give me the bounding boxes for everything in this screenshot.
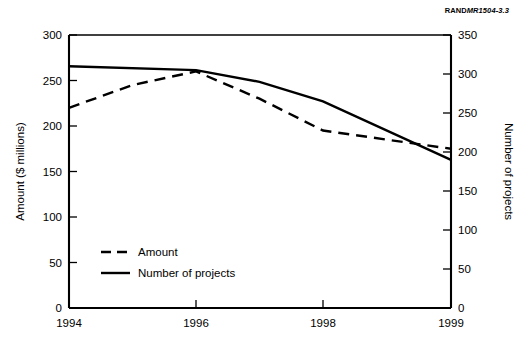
x-axis-tick-labels: 1994 1996 1998 1999 bbox=[56, 317, 464, 329]
right-tick-label-100: 100 bbox=[458, 224, 477, 236]
x-tick-label-1996: 1996 bbox=[183, 317, 209, 329]
x-tick-label-1994: 1994 bbox=[56, 317, 82, 329]
x-axis-ticks bbox=[69, 300, 451, 308]
right-tick-label-0: 0 bbox=[458, 302, 464, 314]
left-axis-ticks bbox=[69, 35, 77, 308]
rand-brand-label: RAND bbox=[445, 6, 467, 15]
left-tick-label-100: 100 bbox=[43, 211, 62, 223]
left-tick-label-200: 200 bbox=[43, 120, 62, 132]
rand-credit-line: RANDMR1504-3.3 bbox=[445, 7, 509, 15]
right-axis-title: Number of projects bbox=[503, 123, 515, 220]
right-tick-label-150: 150 bbox=[458, 185, 477, 197]
left-tick-label-300: 300 bbox=[43, 29, 62, 41]
chart-legend: Amount Number of projects bbox=[101, 246, 235, 279]
legend-label-amount: Amount bbox=[138, 246, 178, 258]
x-tick-label-1998: 1998 bbox=[310, 317, 336, 329]
legend-label-number-of-projects: Number of projects bbox=[138, 267, 235, 279]
plot-frame bbox=[69, 35, 451, 308]
right-tick-label-200: 200 bbox=[458, 146, 477, 158]
data-series-group bbox=[69, 66, 451, 160]
left-tick-label-0: 0 bbox=[56, 302, 62, 314]
right-tick-label-300: 300 bbox=[458, 68, 477, 80]
figure-container: RANDMR1504-3.3 0 50 100 150 200 250 bbox=[0, 0, 519, 344]
right-tick-label-50: 50 bbox=[458, 263, 471, 275]
left-axis-tick-labels: 0 50 100 150 200 250 300 bbox=[43, 29, 62, 314]
left-tick-label-250: 250 bbox=[43, 75, 62, 87]
rand-document-id: MR1504-3.3 bbox=[467, 6, 509, 15]
left-tick-label-150: 150 bbox=[43, 166, 62, 178]
x-tick-label-1999: 1999 bbox=[438, 317, 464, 329]
right-tick-label-250: 250 bbox=[458, 107, 477, 119]
line-chart: 0 50 100 150 200 250 300 Amount ($ milli… bbox=[0, 0, 519, 344]
right-axis-ticks bbox=[443, 35, 451, 308]
series-line-number-of-projects bbox=[69, 66, 451, 160]
left-axis-title: Amount ($ millions) bbox=[14, 122, 26, 221]
right-tick-label-350: 350 bbox=[458, 29, 477, 41]
right-axis-tick-labels: 0 50 100 150 200 250 300 350 bbox=[458, 29, 477, 314]
left-tick-label-50: 50 bbox=[49, 257, 62, 269]
